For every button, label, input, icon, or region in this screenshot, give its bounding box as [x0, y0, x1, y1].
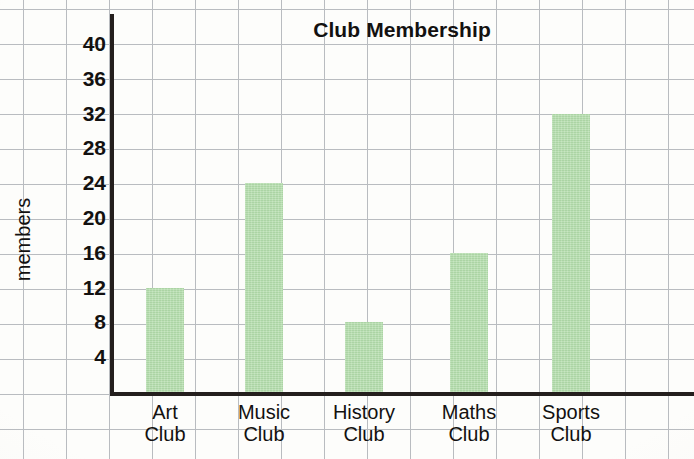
category-line-1: Music	[238, 401, 290, 423]
grid-line-vertical	[66, 0, 67, 459]
y-tick-label-12: 12	[83, 277, 106, 298]
grid-line-vertical	[668, 0, 669, 459]
y-tick-label-40: 40	[83, 33, 106, 54]
bar-chart-scan: 481216202428323640 ArtClubMusicClubHisto…	[0, 0, 694, 459]
y-axis-title: members	[12, 175, 35, 305]
y-tick-label-16: 16	[83, 242, 106, 263]
grid-line-vertical	[324, 0, 325, 459]
y-tick-label-28: 28	[83, 137, 106, 158]
bar-music-club	[245, 183, 283, 392]
category-line-1: Art	[152, 401, 178, 423]
grid-line-horizontal	[0, 9, 694, 10]
bar-sports-club	[552, 114, 590, 392]
category-line-1: Maths	[442, 401, 496, 423]
bar-art-club	[146, 288, 184, 392]
grid-line-vertical	[410, 0, 411, 459]
y-tick-label-4: 4	[94, 346, 106, 367]
grid-line-vertical	[195, 0, 196, 459]
x-axis-line	[110, 392, 694, 396]
x-category-label-sports-club: SportsClub	[511, 401, 631, 446]
grid-line-vertical	[238, 0, 239, 459]
y-tick-label-24: 24	[83, 172, 106, 193]
y-tick-label-36: 36	[83, 68, 106, 89]
grid-line-vertical	[539, 0, 540, 459]
y-tick-label-20: 20	[83, 207, 106, 228]
bar-history-club	[345, 322, 383, 392]
category-line-1: Sports	[542, 401, 600, 423]
grid-line-vertical	[496, 0, 497, 459]
y-axis-line	[110, 14, 114, 396]
grid-line-vertical	[625, 0, 626, 459]
bar-maths-club	[450, 253, 488, 392]
y-tick-label-8: 8	[94, 311, 106, 332]
y-tick-label-32: 32	[83, 103, 106, 124]
category-line-1: History	[333, 401, 395, 423]
category-line-2: Club	[304, 423, 424, 445]
category-line-2: Club	[511, 423, 631, 445]
chart-title: Club Membership	[110, 18, 694, 42]
x-category-label-history-club: HistoryClub	[304, 401, 424, 446]
